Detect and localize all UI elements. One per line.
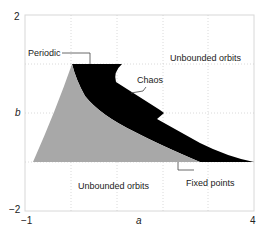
x-axis-label: a: [136, 215, 142, 226]
y-tick-max: 2: [14, 11, 20, 22]
x-tick-min: −1: [21, 215, 33, 226]
label-unbounded-bottom: Unbounded orbits: [78, 181, 150, 191]
y-tick-min: −2: [9, 204, 21, 215]
x-tick-max: 4: [250, 215, 256, 226]
label-chaos: Chaos: [137, 75, 164, 85]
y-axis-label: b: [15, 107, 21, 118]
bifurcation-chart: Periodic Chaos Unbounded orbits Unbounde…: [0, 0, 264, 235]
label-fixed-points: Fixed points: [186, 178, 235, 188]
label-unbounded-top: Unbounded orbits: [170, 53, 242, 63]
label-periodic: Periodic: [28, 48, 61, 58]
